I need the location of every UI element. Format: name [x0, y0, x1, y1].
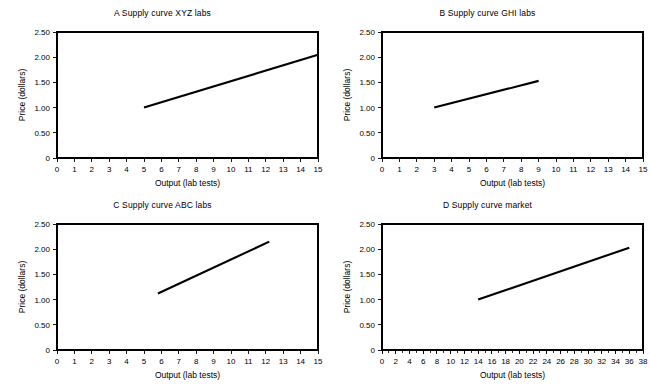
x-tick-label: 5 [142, 165, 147, 174]
y-tick-label: 1.50 [359, 78, 375, 87]
x-tick-label: 30 [584, 357, 593, 366]
panel-b-plot: 012345678910111213141500.501.001.502.002… [325, 0, 650, 192]
x-tick-label: 4 [124, 165, 129, 174]
y-tick-label: 1.50 [34, 78, 50, 87]
x-tick-label: 5 [467, 165, 472, 174]
supply-curve-figure: A Supply curve XYZ labs 0123456789101112… [0, 0, 650, 384]
plot-frame [382, 32, 643, 158]
y-tick-label: 0 [46, 154, 51, 163]
x-tick-label: 8 [519, 165, 524, 174]
x-tick-label: 1 [72, 357, 77, 366]
y-axis-title: Price (dollars) [17, 261, 27, 314]
x-tick-label: 7 [177, 165, 182, 174]
y-tick-label: 1.00 [34, 296, 50, 305]
panel-d-plot: 0246810121416182022242628303234363800.50… [325, 192, 650, 384]
x-tick-label: 10 [552, 165, 561, 174]
x-tick-label: 12 [460, 357, 469, 366]
y-tick-label: 2.00 [34, 245, 50, 254]
x-tick-label: 2 [415, 165, 420, 174]
supply-curve-line [158, 242, 269, 294]
x-tick-label: 4 [449, 165, 454, 174]
y-tick-label: 1.50 [34, 270, 50, 279]
x-tick-label: 7 [502, 165, 507, 174]
y-tick-label: 0 [371, 346, 376, 355]
x-tick-label: 11 [244, 165, 253, 174]
x-tick-label: 0 [380, 357, 385, 366]
x-tick-label: 4 [124, 357, 129, 366]
x-tick-label: 14 [296, 165, 305, 174]
x-axis-title: Output (lab tests) [480, 178, 545, 188]
x-tick-label: 15 [639, 165, 648, 174]
y-tick-label: 1.00 [34, 104, 50, 113]
chart-panel-d: D Supply curve market 024681012141618202… [325, 192, 650, 384]
x-tick-label: 8 [435, 357, 440, 366]
x-tick-label: 12 [261, 357, 270, 366]
y-tick-label: 2.00 [34, 53, 50, 62]
y-tick-label: 2.00 [359, 245, 375, 254]
x-tick-label: 32 [597, 357, 606, 366]
supply-curve-line [144, 55, 318, 108]
y-tick-label: 1.00 [359, 104, 375, 113]
x-tick-label: 12 [261, 165, 270, 174]
x-tick-label: 5 [142, 357, 147, 366]
y-tick-label: 2.50 [34, 28, 50, 37]
x-tick-label: 1 [72, 165, 77, 174]
x-tick-label: 6 [421, 357, 426, 366]
x-tick-label: 3 [107, 357, 112, 366]
y-tick-label: 2.00 [359, 53, 375, 62]
supply-curve-line [434, 81, 538, 108]
y-tick-label: 0.50 [359, 321, 375, 330]
x-tick-label: 9 [211, 165, 216, 174]
x-tick-label: 9 [536, 165, 541, 174]
y-tick-label: 2.50 [34, 220, 50, 229]
x-tick-label: 16 [487, 357, 496, 366]
y-tick-label: 0.50 [34, 129, 50, 138]
x-tick-label: 15 [314, 165, 323, 174]
panel-c-plot: 012345678910111213141500.501.001.502.002… [0, 192, 325, 384]
y-axis-title: Price (dollars) [342, 261, 352, 314]
y-tick-label: 2.50 [359, 220, 375, 229]
x-tick-label: 7 [177, 357, 182, 366]
y-tick-label: 0 [46, 346, 51, 355]
x-tick-label: 9 [211, 357, 216, 366]
x-tick-label: 2 [90, 165, 95, 174]
x-tick-label: 0 [55, 165, 60, 174]
x-tick-label: 11 [244, 357, 253, 366]
x-tick-label: 18 [501, 357, 510, 366]
x-tick-label: 2 [90, 357, 95, 366]
y-tick-label: 2.50 [359, 28, 375, 37]
chart-panel-a: A Supply curve XYZ labs 0123456789101112… [0, 0, 325, 192]
y-tick-label: 0.50 [359, 129, 375, 138]
x-tick-label: 2 [394, 357, 399, 366]
x-tick-label: 0 [380, 165, 385, 174]
x-tick-label: 14 [296, 357, 305, 366]
x-tick-label: 13 [604, 165, 613, 174]
plot-frame [57, 224, 318, 350]
x-tick-label: 28 [570, 357, 579, 366]
x-tick-label: 6 [159, 357, 164, 366]
y-tick-label: 0.50 [34, 321, 50, 330]
x-tick-label: 3 [432, 165, 437, 174]
y-axis-title: Price (dollars) [342, 69, 352, 122]
y-tick-label: 1.50 [359, 270, 375, 279]
x-tick-label: 12 [586, 165, 595, 174]
y-tick-label: 0 [371, 154, 376, 163]
x-tick-label: 13 [279, 165, 288, 174]
x-tick-label: 8 [194, 165, 199, 174]
x-tick-label: 26 [556, 357, 565, 366]
y-axis-title: Price (dollars) [17, 69, 27, 122]
x-tick-label: 11 [569, 165, 578, 174]
x-tick-label: 36 [625, 357, 634, 366]
x-tick-label: 4 [407, 357, 412, 366]
chart-panel-c: C Supply curve ABC labs 0123456789101112… [0, 192, 325, 384]
x-tick-label: 22 [529, 357, 538, 366]
x-tick-label: 34 [611, 357, 620, 366]
x-tick-label: 15 [314, 357, 323, 366]
x-axis-title: Output (lab tests) [480, 370, 545, 380]
y-tick-label: 1.00 [359, 296, 375, 305]
x-tick-label: 1 [397, 165, 402, 174]
x-tick-label: 13 [279, 357, 288, 366]
chart-panel-b: B Supply curve GHI labs 0123456789101112… [325, 0, 650, 192]
x-tick-label: 10 [227, 165, 236, 174]
supply-curve-line [478, 248, 629, 300]
